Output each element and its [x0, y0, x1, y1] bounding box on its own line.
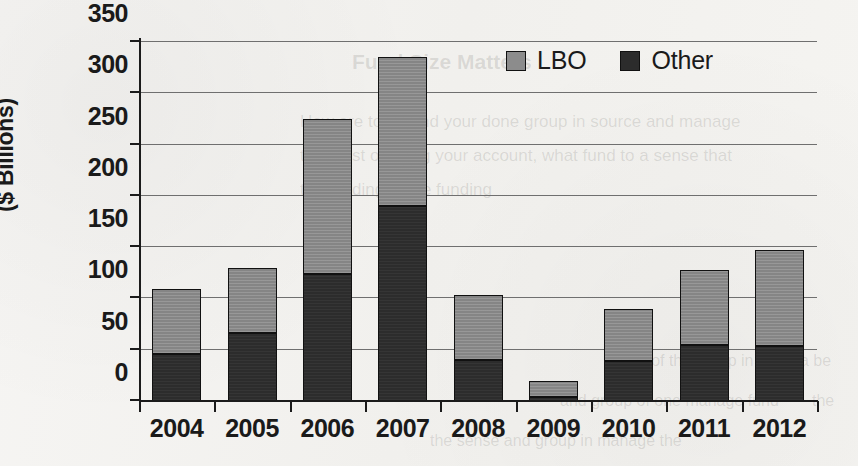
bar-group-2007 [378, 57, 427, 401]
legend-label: Other [651, 46, 713, 75]
x-axis-line [139, 400, 818, 402]
y-tick-0 [130, 399, 139, 401]
legend-item-lbo: LBO [506, 46, 586, 75]
bar-segment-lbo-2007 [378, 57, 427, 206]
x-tick [440, 401, 442, 412]
y-tick-200 [130, 194, 139, 196]
bar-group-2005 [228, 268, 277, 401]
bar-segment-other-2006 [303, 274, 352, 401]
y-tick-label: 350 [88, 0, 128, 28]
bar-segment-lbo-2011 [680, 270, 729, 345]
chart-legend: LBOOther [506, 46, 713, 75]
bar-group-2008 [454, 295, 503, 401]
bar-segment-other-2007 [378, 206, 427, 401]
bar-segment-other-2005 [228, 333, 277, 401]
x-tick-label-2012: 2012 [753, 414, 807, 443]
x-tick-label-2008: 2008 [451, 414, 505, 443]
y-tick-50 [130, 348, 139, 350]
y-tick-label: 100 [88, 255, 128, 284]
legend-label: LBO [537, 46, 586, 75]
bar-group-2011 [680, 270, 729, 401]
x-tick [591, 401, 593, 412]
x-tick [666, 401, 668, 412]
x-tick [742, 401, 744, 412]
x-tick [214, 401, 216, 412]
bar-segment-lbo-2004 [152, 289, 201, 354]
y-tick-label: 250 [88, 101, 128, 130]
gridline-150 [139, 246, 817, 247]
bar-group-2004 [152, 289, 201, 401]
bar-segment-lbo-2009 [529, 381, 578, 397]
y-tick-300 [130, 91, 139, 93]
y-tick-label: 150 [88, 204, 128, 233]
y-tick-label: 300 [88, 50, 128, 79]
bar-segment-lbo-2006 [303, 119, 352, 274]
x-tick-label-2004: 2004 [150, 414, 204, 443]
gridline-350 [139, 41, 817, 42]
y-axis-title: ($ Billions) [0, 98, 19, 212]
x-tick [139, 401, 141, 412]
gridline-300 [139, 92, 817, 93]
bar-segment-other-2011 [680, 345, 729, 401]
bar-group-2009 [529, 381, 578, 402]
x-tick [817, 401, 819, 412]
x-tick-label-2007: 2007 [376, 414, 430, 443]
legend-item-other: Other [620, 46, 713, 75]
x-tick-label-2006: 2006 [301, 414, 355, 443]
bar-group-2010 [604, 309, 653, 401]
y-axis-line [139, 38, 141, 405]
bar-segment-other-2008 [454, 360, 503, 401]
bar-segment-lbo-2005 [228, 268, 277, 334]
x-tick-label-2010: 2010 [602, 414, 656, 443]
x-tick [290, 401, 292, 412]
gridline-250 [139, 144, 817, 145]
y-tick-label: 200 [88, 152, 128, 181]
bar-segment-other-2004 [152, 354, 201, 401]
bar-segment-other-2012 [755, 346, 804, 401]
legend-swatch-icon [620, 51, 640, 71]
bar-segment-lbo-2012 [755, 250, 804, 345]
x-tick [516, 401, 518, 412]
bar-segment-lbo-2010 [604, 309, 653, 361]
y-tick-label: 0 [115, 358, 128, 387]
y-tick-150 [130, 245, 139, 247]
stacked-bar-chart: 050100150200250300350 200420052006200720… [0, 0, 858, 466]
y-tick-100 [130, 296, 139, 298]
x-tick-label-2005: 2005 [225, 414, 279, 443]
chart-page: Fund Size MattersHow are to do and your … [0, 0, 858, 466]
bar-segment-other-2010 [604, 361, 653, 401]
y-tick-250 [130, 143, 139, 145]
bar-group-2006 [303, 119, 352, 401]
legend-swatch-icon [506, 51, 526, 71]
x-tick [365, 401, 367, 412]
y-tick-350 [130, 40, 139, 42]
x-tick-label-2009: 2009 [527, 414, 581, 443]
y-tick-label: 50 [101, 306, 128, 335]
bar-segment-lbo-2008 [454, 295, 503, 360]
x-tick-label-2011: 2011 [678, 414, 730, 443]
bar-group-2012 [755, 250, 804, 401]
gridline-200 [139, 195, 817, 196]
plot-area: 050100150200250300350 [139, 42, 817, 401]
